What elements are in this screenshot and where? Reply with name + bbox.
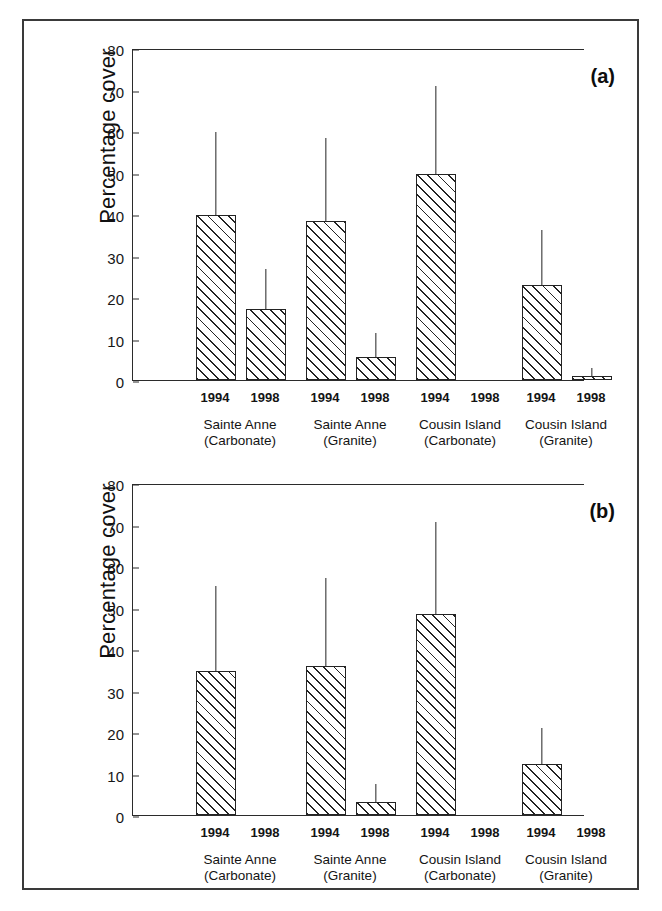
y-tick-label: 10 <box>78 767 133 784</box>
y-tick-label: 0 <box>78 374 133 391</box>
y-tick-label: 70 <box>78 518 133 535</box>
chart-panel-a: (a) Percentage cover 01020304050607080 1… <box>24 23 637 455</box>
bar <box>416 614 456 815</box>
figure-frame: (a) Percentage cover 01020304050607080 1… <box>22 19 639 890</box>
bar <box>356 802 396 815</box>
error-bar <box>591 368 592 376</box>
error-bar <box>325 138 326 221</box>
bar <box>356 357 396 380</box>
y-tick-label: 50 <box>78 166 133 183</box>
y-tick-label: 60 <box>78 560 133 577</box>
y-tick-label: 20 <box>78 726 133 743</box>
error-bar <box>215 586 216 671</box>
bar <box>572 376 612 380</box>
error-bar <box>265 269 266 309</box>
group-label-line: (Granite) <box>491 433 641 449</box>
y-tick-label: 20 <box>78 291 133 308</box>
error-bar <box>215 132 216 215</box>
x-tick-label-year: 1998 <box>345 390 405 405</box>
error-bar <box>435 86 436 174</box>
error-bar <box>375 333 376 357</box>
plot-area-a: 01020304050607080 <box>132 49 584 381</box>
y-tick-mark <box>133 382 139 383</box>
error-bar <box>435 522 436 614</box>
y-tick-mark <box>133 817 139 818</box>
x-tick-label-year: 1998 <box>235 390 295 405</box>
y-tick-label: 0 <box>78 809 133 826</box>
x-tick-label-year: 1998 <box>561 390 621 405</box>
group-label-line: Cousin Island <box>491 417 641 433</box>
y-tick-label: 30 <box>78 249 133 266</box>
x-tick-label-year: 1998 <box>345 825 405 840</box>
y-tick-label: 80 <box>78 42 133 59</box>
y-tick-label: 60 <box>78 125 133 142</box>
bar <box>522 285 562 380</box>
y-tick-label: 80 <box>78 477 133 494</box>
bar-layer-b <box>133 485 584 815</box>
panel-tag-b: (b) <box>589 500 615 523</box>
bar <box>246 309 286 380</box>
error-bar <box>325 578 326 666</box>
x-axis-group-label: Cousin Island(Granite) <box>491 417 641 449</box>
x-tick-label-year: 1998 <box>455 825 515 840</box>
y-tick-label: 40 <box>78 208 133 225</box>
y-tick-label: 40 <box>78 643 133 660</box>
bar <box>416 174 456 380</box>
x-tick-label-year: 1998 <box>455 390 515 405</box>
bar <box>522 764 562 815</box>
x-axis-group-label: Cousin Island(Granite) <box>491 852 641 884</box>
y-tick-label: 30 <box>78 684 133 701</box>
error-bar <box>375 784 376 802</box>
y-tick-label: 50 <box>78 601 133 618</box>
y-tick-label: 70 <box>78 83 133 100</box>
bar-layer-a <box>133 50 584 380</box>
panel-tag-a: (a) <box>591 65 615 88</box>
x-tick-label-year: 1998 <box>235 825 295 840</box>
error-bar <box>541 728 542 763</box>
plot-area-b: 01020304050607080 <box>132 484 584 816</box>
bar <box>306 666 346 815</box>
y-tick-label: 10 <box>78 332 133 349</box>
bar <box>196 215 236 380</box>
bar <box>196 671 236 815</box>
x-tick-label-year: 1998 <box>561 825 621 840</box>
bar <box>306 221 346 380</box>
chart-panel-b: (b) Percentage cover 01020304050607080 1… <box>24 458 637 890</box>
group-label-line: Cousin Island <box>491 852 641 868</box>
group-label-line: (Granite) <box>491 868 641 884</box>
error-bar <box>541 230 542 285</box>
